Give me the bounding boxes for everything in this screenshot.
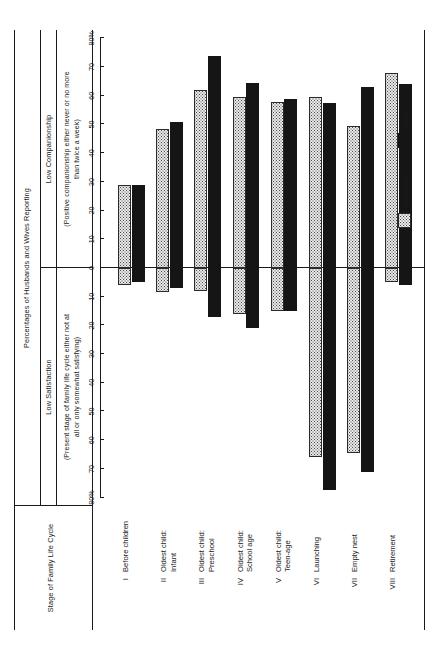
axis-tick-label: 60 xyxy=(87,428,96,452)
bar-low-satisfaction-wives xyxy=(399,268,412,285)
axis-tick-label: 60 xyxy=(87,84,96,108)
stage-label: Empty nest xyxy=(350,534,359,572)
axis-tick-label: 80% xyxy=(87,26,96,50)
bar-low-companionship-wives xyxy=(284,99,297,268)
legend-label-wives: Wives xyxy=(401,107,410,128)
axis-tick-label: 30 xyxy=(87,342,96,366)
bar-low-satisfaction-wives xyxy=(170,268,183,288)
axis-zero-line xyxy=(100,267,424,268)
stage-label: Before children xyxy=(121,521,130,572)
axis-tick xyxy=(100,267,104,268)
bar-low-satisfaction-wives xyxy=(208,268,221,317)
axis-tick-label: 0 xyxy=(87,256,96,280)
stage-numeral: VII xyxy=(350,578,359,600)
axis-tick-label: 50 xyxy=(87,113,96,137)
stage-numeral: VI xyxy=(312,578,321,600)
stage-numeral: III xyxy=(197,578,206,600)
stage-numeral: I xyxy=(121,578,130,600)
axis-tick xyxy=(100,124,104,125)
plot-area: 01020304050607080%1020304050607080%IBefo… xyxy=(0,0,439,658)
axis-tick xyxy=(100,152,104,153)
stage-numeral: II xyxy=(159,578,168,600)
bar-low-companionship-wives xyxy=(323,103,336,268)
bar-low-companionship-husbands xyxy=(271,102,284,268)
bar-low-satisfaction-husbands xyxy=(194,268,207,291)
bar-low-companionship-wives xyxy=(246,83,259,268)
bar-low-companionship-wives xyxy=(361,87,374,268)
legend-label-husbands: Husbands xyxy=(401,174,410,208)
axis-tick-label: 50 xyxy=(87,400,96,424)
axis-tick-label: 10 xyxy=(87,285,96,309)
bar-low-satisfaction-husbands xyxy=(118,268,131,285)
axis-tick xyxy=(100,210,104,211)
bar-low-companionship-wives xyxy=(208,56,221,268)
bar-low-companionship-husbands xyxy=(233,97,246,268)
bar-low-satisfaction-husbands xyxy=(233,268,246,314)
bar-low-companionship-husbands xyxy=(309,97,322,268)
bar-low-companionship-husbands xyxy=(194,90,207,268)
bar-low-companionship-husbands xyxy=(118,185,131,268)
bar-low-satisfaction-wives xyxy=(284,268,297,311)
bar-low-satisfaction-wives xyxy=(361,268,374,472)
stage-numeral: IV xyxy=(236,578,245,600)
stage-label: Launching xyxy=(312,537,321,572)
axis-tick-label: 80% xyxy=(87,486,96,510)
axis-tick-label: 20 xyxy=(87,313,96,337)
axis-tick xyxy=(100,95,104,96)
figure-rotation-wrapper: Percentages of Husbands and Wives Report… xyxy=(0,0,439,658)
legend-swatch-husbands xyxy=(398,213,411,228)
chart-figure: Percentages of Husbands and Wives Report… xyxy=(0,0,439,658)
bar-low-satisfaction-husbands xyxy=(309,268,322,457)
axis-tick xyxy=(100,181,104,182)
axis-tick xyxy=(100,382,104,383)
bar-low-companionship-wives xyxy=(170,122,183,268)
bar-low-satisfaction-wives xyxy=(323,268,336,490)
bar-low-satisfaction-husbands xyxy=(271,268,284,311)
axis-tick-label: 40 xyxy=(87,141,96,165)
axis-tick xyxy=(100,353,104,354)
stage-label: Oldest child: Teen-age xyxy=(274,530,293,572)
stage-label: Oldest child: Preschool xyxy=(197,530,216,572)
bar-low-satisfaction-husbands xyxy=(385,268,398,282)
axis-tick xyxy=(100,238,104,239)
axis-tick xyxy=(100,468,104,469)
axis-tick xyxy=(100,296,104,297)
axis-tick xyxy=(100,411,104,412)
stage-numeral: V xyxy=(274,578,283,600)
axis-tick-label: 10 xyxy=(87,227,96,251)
bar-low-companionship-husbands xyxy=(156,129,169,268)
axis-tick-label: 20 xyxy=(87,199,96,223)
bar-low-companionship-husbands xyxy=(347,126,360,268)
legend-swatch-wives xyxy=(398,133,411,148)
stage-label: Oldest child: School age xyxy=(236,530,255,572)
axis-tick-label: 40 xyxy=(87,371,96,395)
axis-tick-label: 70 xyxy=(87,457,96,481)
axis-tick xyxy=(100,497,104,498)
stage-label: Oldest child: Infant xyxy=(159,530,178,572)
axis-tick xyxy=(100,66,104,67)
bar-low-satisfaction-husbands xyxy=(156,268,169,292)
stage-label: Retirement xyxy=(388,535,397,572)
bar-low-companionship-husbands xyxy=(385,73,398,268)
bar-low-companionship-wives xyxy=(132,185,145,268)
axis-scale-rule xyxy=(100,38,101,497)
axis-tick xyxy=(100,439,104,440)
bar-low-satisfaction-husbands xyxy=(347,268,360,453)
axis-tick xyxy=(100,37,104,38)
bar-low-satisfaction-wives xyxy=(246,268,259,328)
axis-tick-label: 70 xyxy=(87,55,96,79)
bar-low-satisfaction-wives xyxy=(132,268,145,282)
axis-tick xyxy=(100,324,104,325)
stage-numeral: VIII xyxy=(388,578,397,600)
axis-tick-label: 30 xyxy=(87,170,96,194)
